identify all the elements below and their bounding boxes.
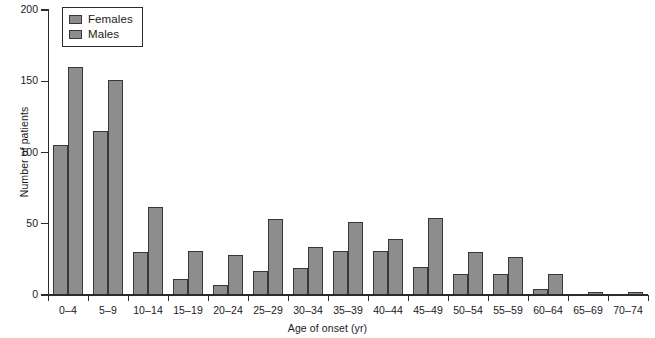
bar-females-50-54 [453,274,468,295]
bar-females-55-59 [493,274,508,295]
bar-females-25-29 [253,271,268,295]
bar-males-10-14 [148,207,163,295]
y-tick-50 [41,223,49,224]
y-tick-150 [41,81,49,82]
bar-females-0-4 [53,145,68,295]
x-tick-2 [128,295,129,301]
x-tick-6 [288,295,289,301]
x-tick-9 [408,295,409,301]
bar-males-5-9 [108,80,123,295]
y-tick-200 [41,9,49,10]
bar-females-30-34 [293,268,308,295]
x-axis-line [48,294,648,295]
y-tick-100 [41,152,49,153]
x-tick-7 [328,295,329,301]
y-tick-label-50: 50 [0,218,38,229]
bar-females-35-39 [333,251,348,295]
x-tick-14 [608,295,609,301]
bar-males-50-54 [468,252,483,295]
y-tick-label-0: 0 [0,289,38,300]
x-tick-8 [368,295,369,301]
bar-females-40-44 [373,251,388,295]
x-axis-title: Age of onset (yr) [0,322,655,334]
legend-label-males: Males [88,29,119,41]
x-tick-label-14: 70–74 [598,304,655,316]
bar-females-10-14 [133,252,148,295]
legend-entry-females: Females [69,12,133,27]
bar-males-35-39 [348,222,363,295]
legend-label-females: Females [88,14,133,26]
bar-males-20-24 [228,255,243,295]
bar-males-55-59 [508,257,523,295]
x-tick-5 [248,295,249,301]
bar-males-30-34 [308,247,323,295]
bar-males-15-19 [188,251,203,295]
legend: Females Males [62,7,143,47]
x-tick-4 [208,295,209,301]
bar-chart: Number of patients 050100150200 0–45–910… [0,0,655,338]
x-tick-13 [568,295,569,301]
bar-males-25-29 [268,219,283,295]
legend-swatch-females-icon [69,15,82,24]
bar-males-0-4 [68,67,83,295]
bar-females-15-19 [173,279,188,295]
x-tick-0 [48,295,49,301]
x-tick-1 [88,295,89,301]
y-tick-label-200: 200 [0,4,38,15]
bar-males-45-49 [428,218,443,295]
x-tick-3 [168,295,169,301]
x-tick-15 [648,295,649,301]
legend-entry-males: Males [69,27,133,42]
y-tick-label-100: 100 [0,147,38,158]
bar-females-45-49 [413,267,428,296]
x-tick-11 [488,295,489,301]
bar-females-5-9 [93,131,108,295]
bar-males-60-64 [548,274,563,295]
bar-males-40-44 [388,239,403,295]
x-tick-10 [448,295,449,301]
legend-swatch-males-icon [69,30,82,39]
x-tick-12 [528,295,529,301]
y-tick-label-150: 150 [0,75,38,86]
